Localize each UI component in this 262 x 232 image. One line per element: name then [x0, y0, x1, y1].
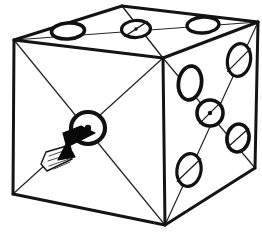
cube-drawing — [0, 0, 262, 232]
top-pip-center — [121, 20, 151, 38]
cube-figure — [0, 0, 262, 232]
top-pip-right — [186, 16, 219, 34]
cube-edge-left-vertical — [13, 40, 14, 194]
right-pip-center — [197, 100, 223, 126]
top-pip-left-ring — [51, 22, 85, 40]
right-pip-center-core — [208, 111, 212, 115]
top-pip-right-ring — [186, 16, 219, 34]
cube-edge-front-vertical — [163, 58, 165, 225]
top-pip-left — [51, 22, 85, 40]
